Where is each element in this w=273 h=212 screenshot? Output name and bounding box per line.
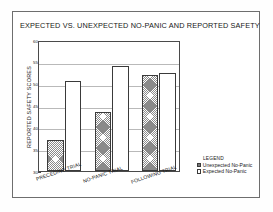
legend-entry: Unexpected No-Panic [197,162,259,168]
bar [65,81,82,171]
bar [159,73,176,171]
chart-legend: LEGEND Unexpected No-PanicExpected No-Pa… [197,156,259,175]
legend-swatch-icon [197,163,201,167]
legend-label: Unexpected No-Panic [203,162,253,168]
bar [112,66,129,171]
legend-entry: Expected No-Panic [197,168,259,174]
chart-title: EXPECTED VS. UNEXPECTED NO-PANIC AND REP… [20,21,260,30]
bar [142,75,159,171]
bar [95,112,112,171]
legend-swatch-icon [197,169,201,173]
plot-area [38,41,180,172]
gridline [39,64,179,65]
legend-entries: Unexpected No-PanicExpected No-Panic [197,162,259,174]
figure-root: EXPECTED VS. UNEXPECTED NO-PANIC AND REP… [0,0,273,212]
legend-label: Expected No-Panic [203,168,247,174]
legend-heading: LEGEND [197,156,259,161]
y-axis-tick-mark [38,172,41,173]
y-axis-tick-labels: 30354045505560 [20,41,38,172]
